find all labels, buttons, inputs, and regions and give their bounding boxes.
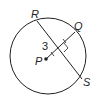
label-p: P bbox=[35, 55, 43, 67]
distance-label: 3 bbox=[42, 40, 48, 52]
label-q: Q bbox=[74, 20, 83, 32]
right-angle-marker bbox=[64, 43, 68, 52]
label-r: R bbox=[31, 8, 39, 20]
label-s: S bbox=[83, 76, 91, 88]
center-point bbox=[44, 57, 48, 61]
geometry-diagram: R Q S P 3 bbox=[0, 0, 93, 108]
segment-pq bbox=[46, 32, 75, 59]
